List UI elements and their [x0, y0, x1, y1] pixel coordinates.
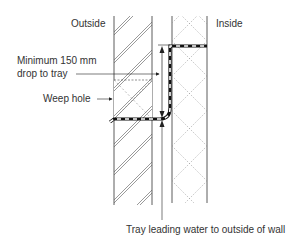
tray-caption-leader [160, 120, 165, 220]
cavity-wall-diagram [0, 0, 298, 246]
tray-caption: Tray leading water to outside of wall [126, 224, 285, 236]
weep-hole-label: Weep hole [43, 93, 91, 105]
outside-label: Outside [71, 18, 105, 30]
min-drop-label-line2: drop to tray [17, 68, 68, 80]
inside-label: Inside [216, 18, 243, 30]
min-drop-label-line1: Minimum 150 mm [17, 55, 96, 67]
inner-block-leaf [172, 6, 207, 216]
drop-dimension-arrow [158, 45, 170, 118]
weep-hole-region [106, 40, 165, 152]
